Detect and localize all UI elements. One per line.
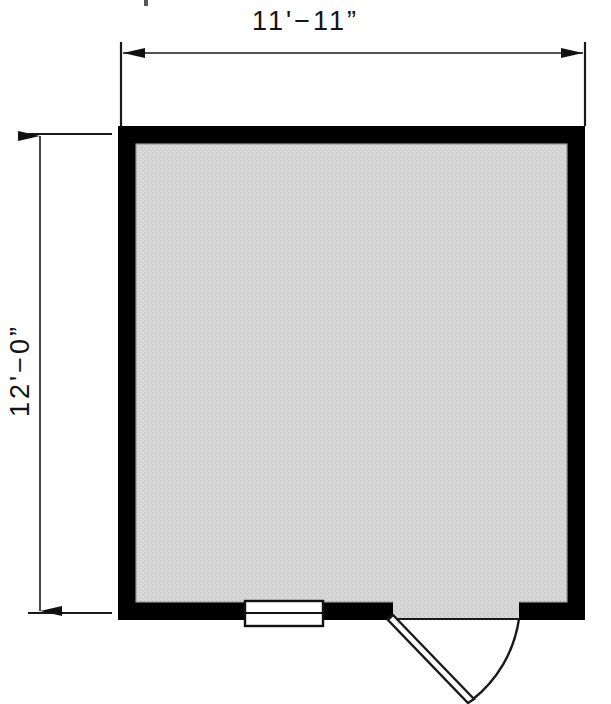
left-dimension-group: [28, 134, 112, 613]
window-group: [245, 601, 323, 626]
door-leaf: [388, 615, 474, 703]
top-crop-artifact: [144, 0, 148, 6]
door-opening-void: [393, 600, 519, 620]
floor-plan-canvas: [0, 0, 611, 704]
floor-plan-drawing: 11'−11” 12'−0”: [0, 0, 611, 704]
building-shell: [118, 126, 585, 620]
door-swing-arc: [472, 619, 519, 700]
interior-floor: [136, 144, 567, 602]
door-swing-group: [388, 615, 519, 703]
top-dimension-group: [121, 42, 585, 126]
door-opening-group: [393, 600, 519, 620]
top-dimension-label: 11'−11”: [0, 8, 611, 35]
left-dimension-label: 12'−0”: [7, 271, 34, 471]
